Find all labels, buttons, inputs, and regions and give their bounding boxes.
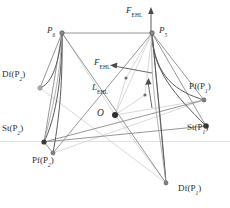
node-pf-p1 — [202, 98, 207, 103]
label-pf-p1: Pf(P1) — [189, 82, 211, 91]
label-st-p2: St(P2) — [2, 124, 23, 133]
label-f-ehl-vector: FEHL — [94, 58, 110, 67]
label-df-p2: Df(P2) — [2, 70, 25, 79]
label-p5: P5 — [159, 26, 167, 35]
node-origin — [112, 112, 118, 118]
node-vector-tail-a — [124, 76, 127, 79]
label-df-p1: Df(P1) — [178, 184, 201, 193]
node-p6 — [60, 31, 64, 35]
node-p5 — [150, 31, 154, 35]
node-df-p1 — [164, 181, 169, 186]
node-st-p2 — [41, 139, 46, 144]
figure-canvas: FEHL FEHL LEHL O P6 P5 Df(P2) St(P2) Pf(… — [0, 0, 230, 208]
label-pf-p2: Pf(P2) — [32, 156, 54, 165]
label-p6: P6 — [47, 26, 55, 35]
node-df-p2 — [38, 86, 42, 90]
label-origin: O — [97, 109, 104, 119]
label-st-p1: St(P1) — [187, 123, 208, 132]
label-l-ehl-vector: LEHL — [92, 83, 108, 92]
label-f-ehl-axis: FEHL — [126, 6, 142, 15]
nodes-layer — [0, 0, 230, 208]
node-vector-tail-b — [143, 93, 146, 96]
